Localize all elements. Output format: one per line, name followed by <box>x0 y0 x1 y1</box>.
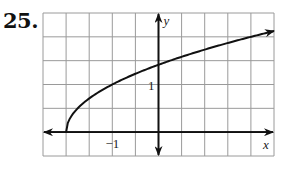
labels: −11xy <box>105 13 269 152</box>
graph: −11xy <box>0 0 281 172</box>
y-tick-label: 1 <box>148 78 155 93</box>
function-curve <box>66 31 274 132</box>
x-tick-label: −1 <box>105 136 119 151</box>
x-axis-label: x <box>262 137 269 152</box>
y-axis-label: y <box>162 13 170 28</box>
curve-group <box>66 31 274 132</box>
